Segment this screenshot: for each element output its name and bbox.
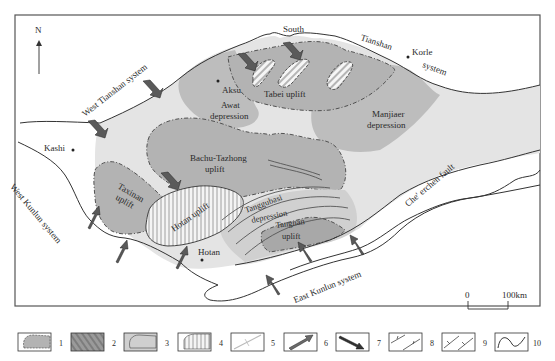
label-awat-depression: depression bbox=[210, 111, 249, 121]
label-kashi: Kashi bbox=[44, 143, 65, 153]
label-manjiaer: Manjiaer bbox=[372, 109, 404, 119]
scale-start: 0 bbox=[465, 290, 470, 300]
kashi-dot bbox=[72, 149, 75, 152]
legend-num-4: 4 bbox=[219, 339, 223, 348]
label-bachu-tazhong: Bachu-Tazhong bbox=[190, 153, 247, 163]
north-label: N bbox=[35, 25, 42, 35]
legend-num-6: 6 bbox=[324, 339, 328, 348]
legend-swatch-2 bbox=[71, 333, 104, 351]
legend-num-8: 8 bbox=[430, 339, 434, 348]
label-awat: Awat bbox=[221, 100, 240, 110]
label-korle: Korle bbox=[412, 47, 433, 57]
label-south: South bbox=[283, 24, 305, 34]
label-bachu-uplift: uplift bbox=[205, 164, 225, 174]
legend-swatch-9 bbox=[442, 333, 475, 351]
aksu-dot bbox=[217, 80, 220, 83]
label-hotan: Hotan bbox=[198, 247, 220, 257]
legend-num-7: 7 bbox=[377, 339, 381, 348]
legend-num-2: 2 bbox=[112, 339, 116, 348]
scale-end: 100km bbox=[502, 290, 527, 300]
legend-num-5: 5 bbox=[271, 339, 275, 348]
label-tabei-uplift: Tabei uplift bbox=[264, 89, 306, 99]
label-aksu: Aksu bbox=[222, 85, 242, 95]
label-tangnan-uplift: uplift bbox=[282, 231, 301, 241]
legend-num-10: 10 bbox=[533, 339, 541, 348]
legend-num-9: 9 bbox=[483, 339, 487, 348]
geologic-map: N South Tianshan Korle system West Tians… bbox=[0, 0, 555, 361]
legend-num-3: 3 bbox=[165, 339, 169, 348]
korle-dot bbox=[407, 56, 410, 59]
label-manjiaer-depression: depression bbox=[367, 120, 406, 130]
legend-num-1: 1 bbox=[59, 339, 63, 348]
hotan-dot bbox=[201, 259, 204, 262]
legend: 1 2 3 4 5 6 7 8 9 1 bbox=[18, 333, 541, 351]
